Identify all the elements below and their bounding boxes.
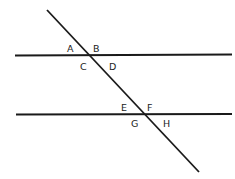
angle-label-d: D [109,61,116,72]
angle-label-b: B [93,43,100,54]
angle-label-g: G [131,118,138,129]
angle-label-a: A [67,43,74,54]
parallel-lines-diagram: A B C D E F G H [0,0,235,179]
transversal-line [47,10,199,172]
parallel-line-bottom [16,114,232,115]
angle-label-e: E [121,102,127,113]
parallel-line-top [15,55,232,56]
angle-label-c: C [80,61,87,72]
angle-label-h: H [163,118,170,129]
angle-label-f: F [147,102,152,113]
